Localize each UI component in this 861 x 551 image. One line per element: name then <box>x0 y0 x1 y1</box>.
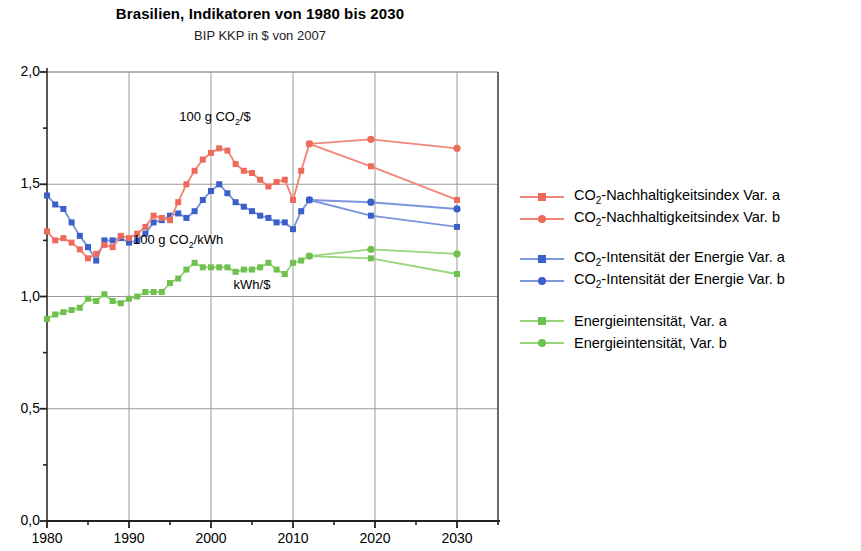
legend-item[interactable]: Energieintensität, Var. a <box>520 310 861 332</box>
legend-item[interactable]: CO2-Nachhaltigkeitsindex Var. a <box>520 186 861 208</box>
legend-group: CO2-Nachhaltigkeitsindex Var. aCO2-Nachh… <box>520 186 861 230</box>
legend-item[interactable]: CO2-Nachhaltigkeitsindex Var. b <box>520 208 861 230</box>
data-point-co2_intensity_var_b <box>453 205 460 212</box>
data-point-energy_intensity_var_a <box>298 258 304 264</box>
data-point-co2_sustainability_var_b <box>453 145 460 152</box>
y-axis-tick-label: 0,0 <box>0 512 40 528</box>
series-co2_sustainability_var_a <box>44 141 460 262</box>
annotation-co2-per-kwh: 100 g CO2/kWh <box>133 232 223 250</box>
data-point-co2_sustainability_var_a <box>126 235 132 241</box>
data-point-co2_sustainability_var_a <box>93 251 99 257</box>
data-point-co2_intensity_var_a <box>249 208 255 214</box>
legend-item-label: Energieintensität, Var. a <box>574 314 727 329</box>
data-point-energy_intensity_var_a <box>257 264 263 270</box>
legend-swatch-icon <box>520 336 564 350</box>
data-point-energy_intensity_var_a <box>208 264 214 270</box>
data-point-co2_intensity_var_a <box>208 188 214 194</box>
y-axis-tick-label: 2,0 <box>0 63 40 79</box>
data-point-co2_intensity_var_a <box>44 192 50 198</box>
legend-swatch-icon <box>520 314 564 328</box>
data-point-co2_intensity_var_a <box>183 215 189 221</box>
data-point-co2_sustainability_var_a <box>101 242 107 248</box>
data-point-co2_intensity_var_a <box>306 197 312 203</box>
data-point-energy_intensity_var_b <box>453 250 460 257</box>
data-point-energy_intensity_var_a <box>142 289 148 295</box>
legend-swatch-icon <box>520 212 564 226</box>
legend-square-marker-icon <box>538 255 546 263</box>
data-point-co2_sustainability_var_a <box>159 215 165 221</box>
data-point-co2_sustainability_var_a <box>216 145 222 151</box>
data-point-energy_intensity_var_a <box>216 264 222 270</box>
data-point-energy_intensity_var_a <box>200 264 206 270</box>
data-point-co2_sustainability_var_a <box>44 228 50 234</box>
legend-circle-marker-icon <box>538 339 546 347</box>
data-point-co2_sustainability_var_a <box>167 217 173 223</box>
data-point-co2_sustainability_var_b <box>367 136 374 143</box>
data-point-co2_intensity_var_a <box>93 258 99 264</box>
data-point-co2_intensity_var_a <box>224 190 230 196</box>
legend-circle-marker-icon <box>538 215 546 223</box>
data-point-energy_intensity_var_a <box>60 309 66 315</box>
data-point-co2_intensity_var_a <box>282 219 288 225</box>
y-axis-tick-label: 1,5 <box>0 175 40 191</box>
data-point-co2_sustainability_var_a <box>241 168 247 174</box>
data-point-co2_sustainability_var_a <box>208 150 214 156</box>
data-point-co2_intensity_var_a <box>233 199 239 205</box>
data-point-energy_intensity_var_a <box>274 267 280 273</box>
legend-item-label: CO2-Intensität der Energie Var. b <box>574 272 785 290</box>
x-axis-tick-label: 1980 <box>17 530 77 546</box>
data-point-energy_intensity_var_a <box>233 269 239 275</box>
data-point-co2_sustainability_var_a <box>233 161 239 167</box>
data-point-co2_intensity_var_a <box>257 213 263 219</box>
data-point-co2_sustainability_var_a <box>110 244 116 250</box>
data-point-co2_sustainability_var_a <box>142 224 148 230</box>
data-point-co2_intensity_var_a <box>454 224 460 230</box>
data-point-co2_sustainability_var_a <box>257 177 263 183</box>
data-point-energy_intensity_var_a <box>52 311 58 317</box>
data-point-co2_intensity_var_a <box>241 204 247 210</box>
legend-swatch-icon <box>520 190 564 204</box>
data-point-energy_intensity_var_a <box>306 253 312 259</box>
annotation-co2-per-dollar: 100 g CO2/$ <box>179 109 251 127</box>
data-point-co2_sustainability_var_a <box>454 197 460 203</box>
data-point-energy_intensity_var_a <box>368 255 374 261</box>
data-point-co2_intensity_var_a <box>368 213 374 219</box>
data-point-co2_intensity_var_a <box>60 206 66 212</box>
data-point-co2_intensity_var_a <box>77 233 83 239</box>
data-point-co2_sustainability_var_a <box>118 233 124 239</box>
data-point-co2_intensity_var_a <box>110 237 116 243</box>
data-point-energy_intensity_var_a <box>192 260 198 266</box>
legend-item-label: CO2-Nachhaltigkeitsindex Var. a <box>574 188 780 206</box>
data-point-energy_intensity_var_a <box>85 296 91 302</box>
data-point-energy_intensity_var_a <box>290 260 296 266</box>
data-point-co2_sustainability_var_a <box>274 179 280 185</box>
data-point-energy_intensity_var_a <box>454 271 460 277</box>
data-point-co2_intensity_var_a <box>192 208 198 214</box>
data-point-energy_intensity_var_b <box>367 246 374 253</box>
data-point-co2_intensity_var_a <box>69 219 75 225</box>
data-point-co2_intensity_var_a <box>200 197 206 203</box>
data-point-co2_sustainability_var_a <box>175 199 181 205</box>
plot-svg <box>0 0 520 551</box>
data-point-co2_sustainability_var_a <box>282 177 288 183</box>
legend-square-marker-icon <box>538 317 546 325</box>
data-point-energy_intensity_var_a <box>183 267 189 273</box>
data-point-co2_sustainability_var_a <box>249 170 255 176</box>
data-point-energy_intensity_var_a <box>110 298 116 304</box>
series-line-co2_sustainability_var_b <box>309 139 457 148</box>
data-point-energy_intensity_var_a <box>151 289 157 295</box>
legend-item[interactable]: Energieintensität, Var. b <box>520 332 861 354</box>
series-line-energy_intensity_var_b <box>309 249 457 256</box>
data-point-energy_intensity_var_a <box>126 296 132 302</box>
data-point-co2_sustainability_var_a <box>77 246 83 252</box>
data-point-co2_sustainability_var_a <box>290 197 296 203</box>
data-point-co2_intensity_var_a <box>175 210 181 216</box>
legend-item[interactable]: CO2-Intensität der Energie Var. a <box>520 248 861 270</box>
data-point-co2_intensity_var_a <box>274 219 280 225</box>
data-point-energy_intensity_var_a <box>241 267 247 273</box>
gridlines <box>47 72 498 521</box>
x-axis-tick-label: 1990 <box>99 530 159 546</box>
data-point-energy_intensity_var_a <box>101 291 107 297</box>
data-point-energy_intensity_var_a <box>224 264 230 270</box>
legend-item[interactable]: CO2-Intensität der Energie Var. b <box>520 270 861 292</box>
